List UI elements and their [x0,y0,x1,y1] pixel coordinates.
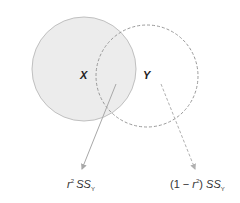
exponent: 2 [71,178,74,184]
venn-diagram [0,0,240,203]
subscript: Y [91,186,95,192]
subscript: Y [221,186,225,192]
ss-symbol: SS [206,178,221,190]
prefix: (1 − [170,178,192,190]
caption-explained-variance: r2 SSY [67,178,95,192]
label-y: Y [143,69,150,81]
arrow-unexplained [161,84,195,169]
label-x: X [80,69,87,81]
ss-symbol: SS [76,178,91,190]
caption-unexplained-variance: (1 − r2) SSY [170,178,225,192]
